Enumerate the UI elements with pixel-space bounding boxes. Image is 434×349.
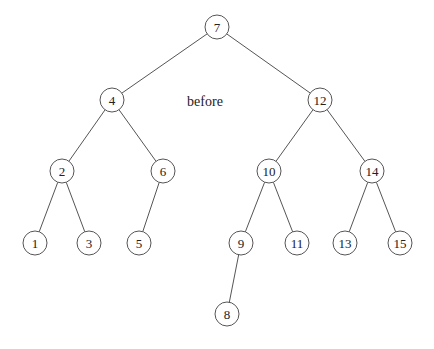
tree-diagram: 741226101413591113158 before [0, 0, 434, 349]
tree-canvas: 741226101413591113158 before [0, 0, 434, 349]
node-label: 8 [224, 307, 231, 322]
edge-7-4 [122, 34, 207, 93]
tree-node-9: 9 [229, 231, 253, 255]
edge-4-6 [119, 110, 156, 162]
node-label: 3 [86, 236, 93, 251]
tree-node-3: 3 [77, 231, 101, 255]
edge-2-3 [66, 182, 85, 232]
tree-node-10: 10 [257, 159, 281, 183]
tree-node-7: 7 [205, 15, 229, 39]
edge-10-9 [245, 182, 264, 232]
edges-layer [39, 34, 395, 302]
tree-node-2: 2 [50, 159, 74, 183]
node-label: 12 [314, 93, 327, 108]
edge-14-13 [349, 182, 368, 232]
edge-10-11 [273, 182, 292, 232]
edge-4-2 [69, 110, 105, 161]
tree-node-6: 6 [151, 159, 175, 183]
tree-node-12: 12 [308, 88, 332, 112]
tree-node-13: 13 [333, 231, 357, 255]
tree-node-15: 15 [388, 231, 412, 255]
edge-2-1 [39, 182, 58, 232]
tree-node-14: 14 [360, 159, 384, 183]
node-label: 7 [214, 20, 221, 35]
node-label: 11 [291, 236, 304, 251]
node-label: 5 [136, 236, 143, 251]
edge-7-12 [227, 34, 310, 93]
edge-14-15 [376, 182, 395, 232]
node-label: 1 [32, 236, 39, 251]
tree-node-4: 4 [100, 88, 124, 112]
node-label: 15 [394, 236, 407, 251]
node-label: 13 [339, 236, 352, 251]
tree-node-5: 5 [127, 231, 151, 255]
tree-node-1: 1 [23, 231, 47, 255]
node-label: 14 [366, 164, 380, 179]
edge-6-5 [143, 182, 159, 231]
nodes-layer: 741226101413591113158 [23, 15, 412, 326]
tree-node-11: 11 [285, 231, 309, 255]
node-label: 10 [263, 164, 276, 179]
node-label: 9 [238, 236, 245, 251]
edge-12-14 [327, 110, 365, 162]
diagram-caption: before [187, 94, 223, 109]
node-label: 2 [59, 164, 66, 179]
edge-9-8 [229, 255, 238, 302]
edge-12-10 [276, 110, 313, 162]
node-label: 4 [109, 93, 116, 108]
node-label: 6 [160, 164, 167, 179]
tree-node-8: 8 [215, 302, 239, 326]
